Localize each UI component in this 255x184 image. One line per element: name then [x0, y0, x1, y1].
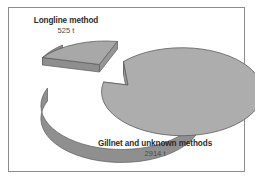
slice-label-longline-title: Longline method	[18, 17, 114, 26]
pie-slice-longline	[43, 41, 118, 72]
slice-label-gillnet-title: Gillnet and unknown methods	[92, 140, 218, 149]
chart-figure: Longline method 525 t Gillnet and unknow…	[0, 0, 255, 184]
slice-label-gillnet-value: 2914 t	[92, 150, 218, 158]
slice-label-longline: Longline method 525 t	[18, 17, 114, 35]
slice-label-gillnet: Gillnet and unknown methods 2914 t	[92, 140, 218, 158]
pie-slice-gillnet-top	[102, 48, 255, 136]
slice-label-longline-value: 525 t	[18, 27, 114, 35]
